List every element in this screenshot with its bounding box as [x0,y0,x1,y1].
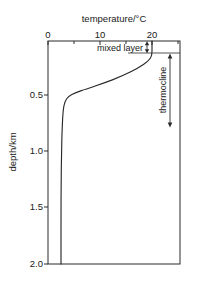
x-axis-title: temperature/°C [82,13,147,24]
y-axis-title: depth/km [7,132,18,171]
y-axis-ticks [44,95,48,264]
y-tick-label-1-0: 1.0 [30,145,43,156]
x-tick-label-20: 20 [147,29,158,40]
thermocline-arrow [168,53,173,127]
chart-figure: temperature/°C 0 10 20 depth/km 0.5 1.0 … [0,0,208,288]
temperature-profile-curve [61,41,152,264]
thermocline-label: thermocline [158,67,168,114]
mixed-layer-arrow [145,41,149,53]
temperature-depth-chart-svg: temperature/°C 0 10 20 depth/km 0.5 1.0 … [0,0,208,288]
y-tick-label-1-5: 1.5 [30,201,43,212]
x-tick-label-0: 0 [45,29,50,40]
x-tick-label-10: 10 [95,29,106,40]
mixed-layer-label: mixed layer [97,43,143,53]
y-tick-label-2-0: 2.0 [30,258,43,269]
y-tick-label-0-5: 0.5 [30,89,43,100]
